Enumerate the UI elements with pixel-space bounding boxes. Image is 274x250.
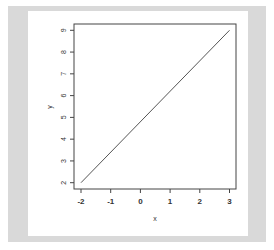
y-tick-label: 7 xyxy=(60,72,67,76)
data-line xyxy=(81,30,230,182)
y-tick-label: 8 xyxy=(60,50,67,54)
x-tick-label: 2 xyxy=(198,197,203,206)
y-axis: 23456789 xyxy=(60,28,74,184)
x-axis: -2-10123 xyxy=(77,189,232,206)
y-tick-label: 6 xyxy=(60,94,67,98)
y-tick-label: 5 xyxy=(60,115,67,119)
y-axis-title: y xyxy=(46,105,54,109)
y-tick-label: 2 xyxy=(60,181,67,185)
chart-svg: -2-10123 23456789 x y xyxy=(0,0,274,250)
y-tick-label: 9 xyxy=(60,28,67,32)
x-tick-label: -2 xyxy=(77,197,85,206)
x-tick-label: 3 xyxy=(227,197,232,206)
y-tick-label: 4 xyxy=(60,137,67,141)
x-axis-title: x xyxy=(153,215,157,222)
x-tick-label: 0 xyxy=(138,197,143,206)
x-tick-label: -1 xyxy=(107,197,115,206)
y-tick-label: 3 xyxy=(60,159,67,163)
x-tick-label: 1 xyxy=(168,197,173,206)
